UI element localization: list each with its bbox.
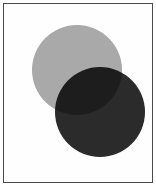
drawing-canvas xyxy=(4,4,152,182)
dark-circle xyxy=(55,67,145,157)
figure-root xyxy=(0,0,156,186)
